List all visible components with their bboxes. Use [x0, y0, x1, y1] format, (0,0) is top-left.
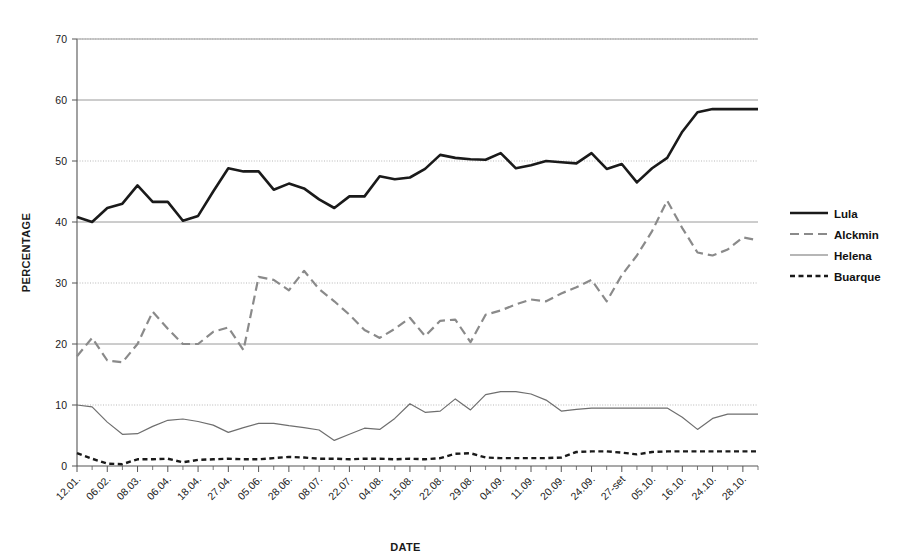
x-axis-title: DATE — [390, 541, 421, 553]
x-axis-tick-label: 28.10. — [719, 473, 748, 502]
series-line-helena — [77, 392, 758, 441]
y-axis-tick-label: 30 — [55, 277, 67, 289]
y-axis-tick-label: 70 — [55, 33, 67, 45]
y-axis-tick-label: 20 — [55, 338, 67, 350]
y-axis-tick-label: 50 — [55, 155, 67, 167]
x-axis-tick-label: 05.10. — [628, 473, 657, 502]
x-axis-tick-label: 05.06. — [235, 473, 264, 502]
x-axis-tick-label: 11.09. — [508, 473, 537, 502]
y-axis-tick-label: 60 — [55, 94, 67, 106]
x-axis-tick-label: 20.09. — [538, 473, 567, 502]
x-axis-tick-label: 12.01. — [53, 473, 82, 502]
legend-label-alckmin: Alckmin — [834, 229, 879, 241]
legend-label-helena: Helena — [834, 250, 872, 262]
x-axis-tick-label: 06.04. — [144, 473, 173, 502]
y-axis-title: PERCENTAGE — [20, 213, 32, 293]
x-axis-tick-label: 27-set — [598, 473, 627, 502]
x-axis-tick-label: 04.08. — [356, 473, 385, 502]
x-axis-tick-label: 15.08. — [386, 473, 415, 502]
chart-canvas: 01020304050607012.01.06.02.08.03.06.04.1… — [0, 0, 915, 559]
series-line-lula — [77, 109, 758, 222]
x-axis-tick-label: 22.08. — [416, 473, 445, 502]
line-chart: 01020304050607012.01.06.02.08.03.06.04.1… — [0, 0, 915, 559]
x-axis-ticks: 12.01.06.02.08.03.06.04.18.04.27.04.05.0… — [53, 466, 758, 502]
series-line-buarque — [77, 451, 758, 464]
y-axis-tick-label: 0 — [61, 460, 67, 472]
series-group — [77, 109, 758, 464]
y-axis-tick-label: 40 — [55, 216, 67, 228]
legend-label-lula: Lula — [834, 208, 858, 220]
x-axis-tick-label: 24.10. — [689, 473, 718, 502]
x-axis-tick-label: 29.08. — [447, 473, 476, 502]
x-axis-tick-label: 24.09. — [568, 473, 597, 502]
x-axis-tick-label: 18.04. — [174, 473, 203, 502]
x-axis-tick-label: 22.07. — [326, 473, 355, 502]
x-axis-tick-label: 04.09. — [477, 473, 506, 502]
series-line-alckmin — [77, 201, 758, 363]
y-axis-tick-label: 10 — [55, 399, 67, 411]
x-axis-tick-label: 08.03. — [114, 473, 143, 502]
x-axis-tick-label: 27.04. — [205, 473, 234, 502]
legend-label-buarque: Buarque — [834, 271, 881, 283]
x-axis-tick-label: 28.06. — [265, 473, 294, 502]
x-axis-tick-label: 06.02. — [84, 473, 113, 502]
x-axis-tick-label: 08.07. — [295, 473, 324, 502]
legend: LulaAlckminHelenaBuarque — [790, 208, 881, 283]
x-axis-tick-label: 16.10. — [659, 473, 688, 502]
